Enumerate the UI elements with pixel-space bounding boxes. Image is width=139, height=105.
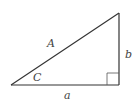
angle-label: C bbox=[33, 71, 42, 84]
hypotenuse-line bbox=[11, 13, 119, 85]
hypotenuse-label: A bbox=[46, 37, 55, 50]
right-angle-marker bbox=[107, 73, 119, 85]
horizontal-side-label: a bbox=[64, 89, 71, 102]
vertical-side-label: b bbox=[125, 48, 132, 61]
triangle-diagram: A b C a bbox=[0, 0, 139, 105]
